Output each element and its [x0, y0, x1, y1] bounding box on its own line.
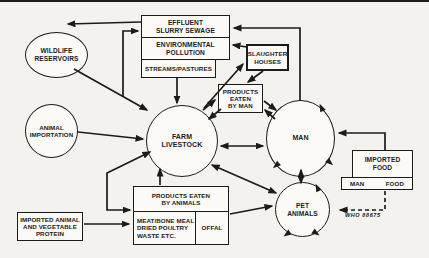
products-eaten-by-animals-label: PRODUCTS EATEN BY ANIMALS [152, 192, 210, 206]
arrow-slaughter-to-products-eaten-by-man [248, 71, 263, 82]
imported-protein-box: IMPORTED ANIMAL AND VEGETABLE PROTEIN [17, 212, 83, 241]
effluent-slurry-sewage-box: EFFLUENT SLURRY SEWAGE [141, 15, 230, 38]
imported-food-food-label: FOOD [386, 180, 404, 187]
farm-livestock-circle: FARM LIVESTOCK [146, 105, 218, 177]
imported-food-label: IMPORTED FOOD [365, 156, 401, 171]
imported-food-man-label: MAN [350, 180, 364, 187]
arrow-animal-importation-to-farm-livestock [78, 132, 143, 139]
imported-protein-label: IMPORTED ANIMAL AND VEGETABLE PROTEIN [20, 216, 80, 237]
products-eaten-by-animals-header: PRODUCTS EATEN BY ANIMALS [133, 186, 229, 212]
products-eaten-by-man-box: PRODUCTS EATEN BY MAN [218, 84, 263, 113]
slaughter-houses-label: SLAUGHTER HOUSES [248, 50, 287, 64]
animal-importation-label: ANIMAL IMPORTATION [30, 124, 74, 138]
wildlife-reservoirs-label: WILDLIFE RESERVOIRS [34, 47, 78, 62]
environmental-pollution-box: ENVIRONMENTAL POLLUTION [141, 37, 230, 60]
streams-pastures-label: STREAMS/PASTURES [145, 65, 212, 72]
pet-animals-circle: PET ANIMALS [275, 182, 330, 237]
arrow-farm-livestock-to-products-man [203, 100, 215, 110]
top-rule [0, 0, 429, 2]
who-figure-credit: WHO 88675 [345, 212, 381, 218]
arrow-imported-food-to-man [339, 133, 385, 150]
animal-importation-circle: ANIMAL IMPORTATION [25, 104, 78, 158]
pet-animals-label: PET ANIMALS [287, 202, 318, 217]
man-circle: MAN [266, 100, 335, 177]
man-label: MAN [292, 134, 308, 142]
meat-bone-meal-cell: MEAT/BONE MEAL DRIED POULTRY WASTE ETC. [133, 211, 196, 245]
zoonoses-transmission-diagram: WILDLIFE RESERVOIRS ANIMAL IMPORTATION F… [0, 0, 429, 258]
farm-livestock-label: FARM LIVESTOCK [162, 133, 203, 149]
meat-bone-meal-label: MEAT/BONE MEAL DRIED POULTRY WASTE ETC. [137, 217, 194, 238]
arrow-offal-to-pet-animals [230, 206, 272, 214]
arrow-slaughter-to-environmental-pollution [233, 45, 247, 47]
streams-pastures-box: STREAMS/PASTURES [141, 59, 216, 78]
imported-food-sub-box: MAN FOOD [341, 177, 413, 190]
offal-cell: OFFAL [195, 211, 229, 245]
arrow-farm-livestock-to-effluent [123, 31, 138, 96]
arrow-effluent-to-wildlife [68, 22, 141, 24]
arrow-products-man-to-man [264, 101, 276, 110]
arrow-imported-food-to-pet-animals-dashed [340, 191, 385, 210]
effluent-slurry-sewage-label: EFFLUENT SLURRY SEWAGE [156, 19, 215, 34]
offal-label: OFFAL [202, 224, 223, 231]
wildlife-reservoirs-circle: WILDLIFE RESERVOIRS [25, 32, 88, 78]
arrow-wildlife-to-farm-livestock [74, 69, 147, 110]
products-eaten-by-man-label: PRODUCTS EATEN BY MAN [223, 88, 259, 109]
environmental-pollution-label: ENVIRONMENTAL POLLUTION [156, 41, 214, 56]
imported-food-box: IMPORTED FOOD [352, 150, 413, 178]
slaughter-houses-box: SLAUGHTER HOUSES [246, 44, 289, 71]
